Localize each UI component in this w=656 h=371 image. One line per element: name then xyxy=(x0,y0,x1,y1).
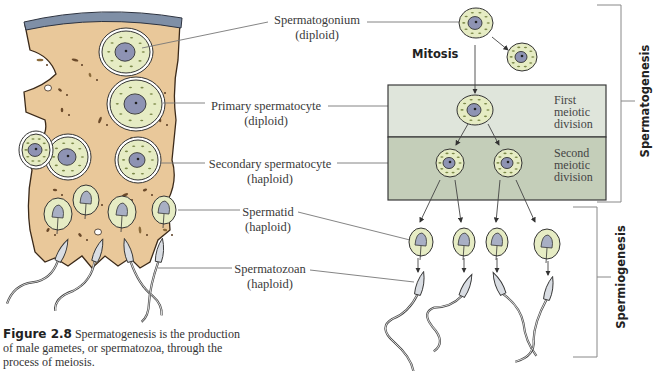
organelle xyxy=(62,142,65,144)
organelle xyxy=(148,168,151,170)
organelle xyxy=(111,42,114,44)
flagellum-outline xyxy=(131,257,163,319)
organelle xyxy=(132,173,135,175)
vacuole xyxy=(45,85,52,91)
nucleolus xyxy=(507,161,510,164)
organelle xyxy=(463,115,466,117)
seminiferous-tubule-section xyxy=(7,12,182,324)
organelle xyxy=(153,103,156,105)
organelle xyxy=(26,156,29,158)
organelle xyxy=(510,56,513,58)
tissue-cell-b xyxy=(19,131,53,169)
organelle xyxy=(498,168,501,170)
organelle xyxy=(43,143,46,145)
organelle xyxy=(469,119,472,121)
organelle xyxy=(78,148,81,150)
granule-dot xyxy=(66,94,68,96)
arrow-mitosis-side xyxy=(492,37,508,50)
nucleus xyxy=(443,157,455,168)
organelle xyxy=(132,145,135,147)
organelle xyxy=(62,170,65,172)
spermiogenesis-label: Spermiogenesis xyxy=(614,225,628,329)
granule-dot xyxy=(46,64,48,66)
flow-secondary-spermatocyte-right xyxy=(494,149,522,177)
organelle xyxy=(460,109,463,111)
organelle xyxy=(517,47,520,49)
organelle xyxy=(512,62,515,64)
granule-dot xyxy=(164,92,166,94)
organelle xyxy=(515,156,518,158)
spermatogenesis-diagram: Spermatogonium (diploid) Primary spermat… xyxy=(0,0,656,371)
tissue-secondary-spermatocyte xyxy=(115,137,161,183)
label-spermatid-ploidy: (haploid) xyxy=(245,220,291,234)
organelle xyxy=(496,162,499,164)
flow-spermatozoan xyxy=(490,269,539,359)
nucleolus xyxy=(521,55,524,58)
organelle xyxy=(487,22,490,24)
first-meiotic-line3: division xyxy=(554,117,593,131)
organelle xyxy=(81,156,84,158)
organelle xyxy=(445,172,448,174)
sperm-head xyxy=(414,271,427,296)
granule-dot xyxy=(101,204,103,206)
organelle xyxy=(524,66,527,68)
organelle xyxy=(457,156,460,158)
organelle xyxy=(31,138,34,140)
organelle xyxy=(484,16,487,18)
organelle xyxy=(484,29,487,31)
sperm-head xyxy=(543,276,556,301)
organelle xyxy=(463,103,466,105)
organelle xyxy=(129,120,132,122)
flow-spermatogonium xyxy=(459,8,493,38)
granule-dot xyxy=(171,234,173,236)
organelle xyxy=(478,99,481,101)
organelle xyxy=(470,99,473,101)
organelle xyxy=(55,165,58,167)
flagellum-outline xyxy=(376,289,433,371)
organelle xyxy=(116,103,119,105)
leader-spermatozoan-right xyxy=(310,270,414,282)
granule-dot xyxy=(54,234,56,236)
nucleus xyxy=(28,144,42,157)
label-spermatogonium-ploidy: (diploid) xyxy=(295,28,339,42)
organelle xyxy=(512,50,515,52)
organelle xyxy=(140,120,143,122)
flow-spermatid xyxy=(453,228,475,260)
flagellum-outline xyxy=(414,286,462,352)
granule xyxy=(37,59,44,62)
organelle xyxy=(141,146,144,148)
organelle xyxy=(110,60,113,62)
figure-caption: Figure 2.8 Spermatogenesis is the produc… xyxy=(3,327,243,369)
organelle xyxy=(498,156,501,158)
leader-spermatid-right xyxy=(298,212,410,240)
organelle xyxy=(38,138,41,140)
stage-labels: Spermatogonium (diploid) Primary spermat… xyxy=(209,13,361,291)
organelle xyxy=(129,87,132,89)
organelle xyxy=(119,113,122,115)
organelle xyxy=(503,153,506,155)
label-spermatogonium: Spermatogonium xyxy=(274,13,360,27)
organelle xyxy=(451,172,454,174)
organelle xyxy=(438,162,441,164)
organelle xyxy=(478,32,481,34)
nucleus xyxy=(515,51,527,62)
nucleus xyxy=(115,43,135,61)
organelle xyxy=(484,103,487,105)
flow-spermatid xyxy=(486,228,508,260)
organelle xyxy=(37,160,40,162)
organelle xyxy=(440,156,443,158)
organelle xyxy=(26,142,29,144)
granule-dot xyxy=(146,234,148,236)
organelle xyxy=(130,66,133,68)
granule-dot xyxy=(86,239,88,241)
organelle xyxy=(150,93,153,95)
organelle xyxy=(445,153,448,155)
figure-number: Figure 2.8 xyxy=(3,327,72,341)
organelle xyxy=(531,56,534,58)
organelle xyxy=(55,148,58,150)
organelle xyxy=(464,28,467,30)
tissue-spermatogonium xyxy=(99,28,153,76)
organelle xyxy=(477,119,480,121)
organelle xyxy=(484,116,487,118)
nucleolus xyxy=(137,158,140,161)
